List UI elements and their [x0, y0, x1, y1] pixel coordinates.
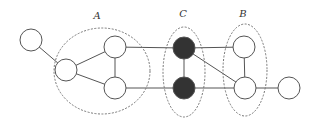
- filled-node-n6: [173, 77, 195, 99]
- node-n4: [104, 77, 126, 99]
- group-A-label: A: [92, 10, 100, 21]
- network-diagram: ACB: [0, 0, 315, 124]
- background: [0, 0, 315, 124]
- filled-node-n5: [173, 37, 195, 59]
- node-n9: [278, 77, 300, 99]
- node-n7: [233, 36, 255, 58]
- node-n1: [20, 29, 42, 51]
- node-n8: [234, 77, 256, 99]
- group-C-label: C: [179, 8, 187, 19]
- node-n3: [104, 36, 126, 58]
- group-B-label: B: [238, 8, 246, 19]
- node-n2: [55, 59, 77, 81]
